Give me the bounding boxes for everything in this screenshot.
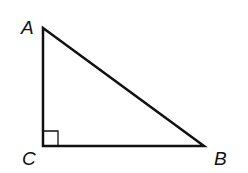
right-angle-marker [43, 131, 58, 146]
vertex-label-b: B [214, 149, 227, 168]
triangle-figure [0, 0, 248, 173]
diagram-canvas: A C B [0, 0, 248, 173]
triangle-abc [43, 28, 204, 146]
vertex-label-c: C [22, 149, 36, 168]
vertex-label-a: A [21, 18, 34, 37]
